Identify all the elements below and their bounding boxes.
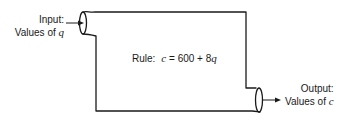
input-label-values: Values of q	[15, 26, 64, 39]
output-arrow-icon	[262, 98, 281, 103]
rule-equation: c = 600 + 8q	[161, 53, 216, 64]
output-label-title: Output:	[285, 83, 334, 95]
rule-text: Rule:c = 600 + 8q	[132, 52, 217, 64]
input-variable: q	[59, 26, 65, 38]
input-label: Input: Values of q	[15, 14, 64, 39]
input-arrow-icon	[66, 21, 84, 26]
output-variable: c	[329, 95, 334, 107]
input-label-title: Input:	[15, 14, 64, 26]
output-label-values: Values of c	[285, 95, 334, 108]
output-label: Output: Values of c	[285, 83, 334, 108]
rule-label: Rule:	[132, 53, 155, 64]
output-pipe-opening	[256, 88, 263, 112]
